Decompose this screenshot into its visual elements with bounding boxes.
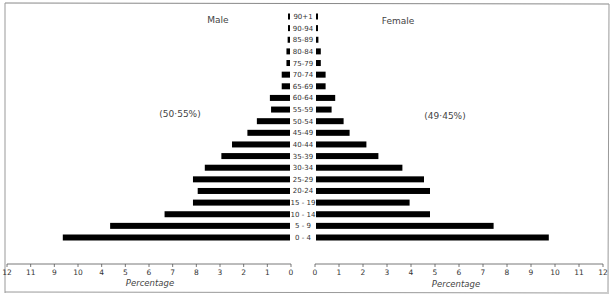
age-group-label: 80-84 bbox=[293, 48, 314, 56]
female-ticks-group: 0123456789101112 bbox=[313, 264, 608, 277]
female-bar-30-34 bbox=[316, 165, 402, 171]
age-group-label: 60-64 bbox=[293, 94, 314, 102]
female-share-label: (49·45%) bbox=[424, 111, 465, 121]
male-bar-5-9 bbox=[110, 223, 290, 229]
age-group-label: 85-89 bbox=[293, 36, 313, 44]
male-bar-15-19 bbox=[193, 200, 290, 206]
male-label: Male bbox=[207, 15, 229, 25]
male-axis-tick-label: 10 bbox=[73, 268, 83, 277]
female-axis-tick-label: 10 bbox=[550, 268, 560, 277]
female-bar-60-64 bbox=[316, 95, 335, 101]
age-group-label: 30-34 bbox=[293, 164, 314, 172]
female-axis-tick-label: 4 bbox=[409, 268, 414, 277]
female-bar-25-29 bbox=[316, 176, 424, 182]
male-axis-tick-label: 0 bbox=[289, 268, 294, 277]
female-axis-tick-label: 5 bbox=[433, 268, 438, 277]
age-group-label: 40-44 bbox=[293, 141, 314, 149]
male-bar-75-79 bbox=[286, 60, 290, 66]
male-bar-90-94 bbox=[288, 25, 290, 31]
age-group-label: 10 - 14 bbox=[291, 211, 316, 219]
male-axis-title: Percentage bbox=[126, 278, 174, 288]
male-bar-70-74 bbox=[282, 72, 290, 78]
male-ticks-group: 1211910456783210 bbox=[2, 264, 293, 277]
female-axis-tick-label: 9 bbox=[529, 268, 534, 277]
male-axis-tick-label: 4 bbox=[99, 268, 104, 277]
frame-bottom bbox=[5, 292, 609, 293]
male-axis-tick-label: 8 bbox=[194, 268, 199, 277]
frame-right bbox=[608, 4, 609, 292]
male-axis-tick-label: 5 bbox=[123, 268, 128, 277]
male-axis-tick-label: 9 bbox=[52, 268, 57, 277]
male-axis-tick-label: 3 bbox=[218, 268, 223, 277]
frame-top bbox=[5, 3, 609, 4]
population-pyramid-chart: Male Female (50·55%) (49·45%) 0 - 45 - 9… bbox=[0, 0, 612, 298]
female-axis-title: Percentage bbox=[432, 279, 480, 289]
male-share-label: (50·55%) bbox=[159, 109, 200, 119]
female-bar-75-79 bbox=[316, 60, 321, 66]
male-bar-65-69 bbox=[282, 83, 290, 89]
male-bar-80-84 bbox=[286, 48, 290, 54]
male-axis-tick-label: 11 bbox=[26, 268, 36, 277]
female-bar-10-14 bbox=[316, 211, 430, 217]
age-group-label: 25-29 bbox=[293, 176, 313, 184]
female-axis-tick-label: 0 bbox=[313, 268, 318, 277]
male-bar-20-24 bbox=[198, 188, 290, 194]
male-axis-tick-label: 7 bbox=[170, 268, 175, 277]
female-bar-90-94 bbox=[316, 25, 318, 31]
male-bar-55-59 bbox=[271, 107, 290, 113]
male-axis-tick-label: 1 bbox=[265, 268, 270, 277]
female-bar-20-24 bbox=[316, 188, 430, 194]
age-group-label: 35-39 bbox=[293, 153, 313, 161]
male-bar-30-34 bbox=[205, 165, 290, 171]
female-axis-tick-label: 12 bbox=[598, 268, 608, 277]
female-axis-tick-label: 6 bbox=[457, 268, 462, 277]
female-bar-40-44 bbox=[316, 141, 366, 147]
male-bar-35-39 bbox=[221, 153, 290, 159]
male-bar-25-29 bbox=[193, 176, 290, 182]
female-bar-5-9 bbox=[316, 223, 494, 229]
age-group-label: 90+1 bbox=[293, 13, 312, 21]
female-bar-35-39 bbox=[316, 153, 378, 159]
age-group-label: 50-54 bbox=[293, 118, 314, 126]
female-axis-tick-label: 7 bbox=[481, 268, 486, 277]
male-axis-tick-label: 12 bbox=[2, 268, 12, 277]
male-bar-85-89 bbox=[288, 37, 290, 43]
age-group-label: 70-74 bbox=[293, 71, 314, 79]
age-group-label: 75-79 bbox=[293, 60, 313, 68]
age-group-label: 45-49 bbox=[293, 129, 313, 137]
female-label: Female bbox=[382, 16, 415, 26]
female-bar-45-49 bbox=[316, 130, 350, 136]
female-bar-70-74 bbox=[316, 72, 326, 78]
female-bar-85-89 bbox=[316, 37, 318, 43]
male-bar-60-64 bbox=[270, 95, 290, 101]
male-axis-tick-label: 6 bbox=[147, 268, 152, 277]
male-bar-45-49 bbox=[247, 130, 290, 136]
female-axis-tick-label: 3 bbox=[385, 268, 390, 277]
age-group-label: 55-59 bbox=[293, 106, 313, 114]
female-bar-0-4 bbox=[316, 235, 549, 241]
female-axis-tick-label: 2 bbox=[361, 268, 366, 277]
age-group-label: 5 - 9 bbox=[295, 222, 311, 230]
female-axis-tick-label: 8 bbox=[505, 268, 510, 277]
male-bar-90+1 bbox=[288, 14, 290, 20]
female-bar-80-84 bbox=[316, 48, 321, 54]
male-bar-50-54 bbox=[257, 118, 290, 124]
age-group-label: 90-94 bbox=[293, 25, 314, 33]
male-bar-0-4 bbox=[63, 235, 290, 241]
age-group-label: 0 - 4 bbox=[295, 234, 311, 242]
female-bar-15-19 bbox=[316, 200, 410, 206]
male-bar-10-14 bbox=[165, 211, 290, 217]
age-group-label: 15 - 19 bbox=[291, 199, 316, 207]
female-bar-55-59 bbox=[316, 107, 332, 113]
male-axis-tick-label: 2 bbox=[241, 268, 246, 277]
male-bar-40-44 bbox=[232, 141, 290, 147]
age-labels-group: 0 - 45 - 910 - 1415 - 1920-2425-2930-343… bbox=[291, 13, 316, 242]
age-group-label: 20-24 bbox=[293, 187, 314, 195]
female-bar-50-54 bbox=[316, 118, 344, 124]
female-bar-65-69 bbox=[316, 83, 326, 89]
female-bar-90+1 bbox=[316, 14, 318, 20]
female-axis-tick-label: 11 bbox=[574, 268, 584, 277]
age-group-label: 65-69 bbox=[293, 83, 313, 91]
female-axis-tick-label: 1 bbox=[337, 268, 342, 277]
